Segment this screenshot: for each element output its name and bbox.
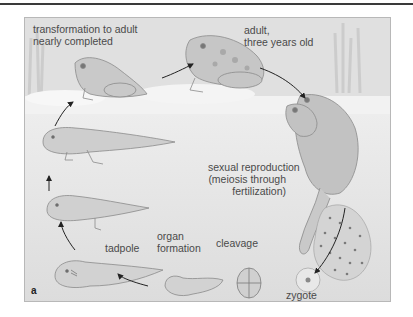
embryo-icon <box>237 268 261 298</box>
top-rule <box>0 3 413 5</box>
life-cycle-illustration <box>25 18 391 302</box>
stage-label-zygote: zygote <box>286 289 317 301</box>
stage-label-organ-formation: organ formation <box>157 230 201 254</box>
stage-label-sexual-reproduction: sexual reproduction (meiosis through fer… <box>208 161 286 197</box>
stage-label-cleavage: cleavage <box>216 237 258 249</box>
frog-life-cycle-figure: transformation to adult nearly completed… <box>24 17 391 302</box>
stage-label-transformation: transformation to adult nearly completed <box>33 23 137 47</box>
panel-letter: a <box>31 285 37 296</box>
stage-label-tadpole: tadpole <box>105 242 139 254</box>
stage-label-adult: adult, three years old <box>244 24 313 48</box>
